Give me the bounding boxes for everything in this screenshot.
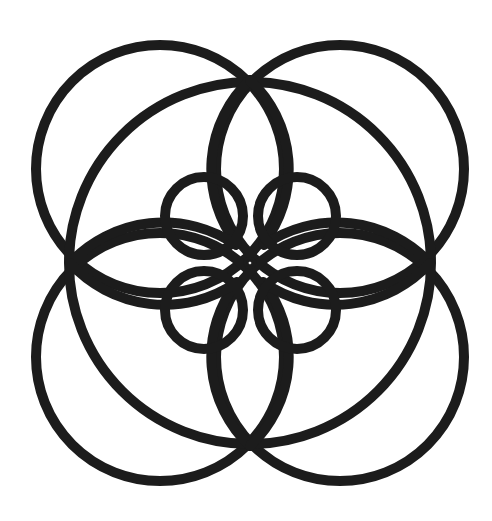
central-circle [69, 82, 431, 444]
figure-svg [0, 0, 492, 521]
inner-circles [165, 177, 336, 349]
outer-circles [36, 45, 464, 481]
geometric-figure [0, 0, 492, 521]
